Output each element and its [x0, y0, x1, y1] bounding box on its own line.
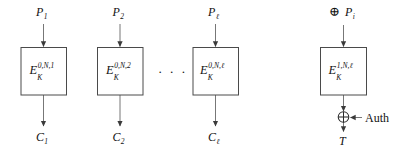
cipher-sup-3: 0,N,ℓ	[208, 62, 224, 70]
cipher-box-tag	[321, 48, 367, 96]
output-label-2: C2	[113, 131, 125, 143]
ellipsis: · · ·	[158, 64, 188, 80]
cipher-box-label-tag: E1,N,ℓK	[329, 64, 337, 77]
cipher-box-2	[98, 48, 144, 96]
cipher-sup-tag: 1,N,ℓ	[337, 62, 353, 70]
cipher-sub-tag: K	[336, 74, 341, 82]
auth-input-label: Auth	[365, 111, 389, 126]
cipher-sub-1: K	[37, 74, 42, 82]
output-label-3: Cℓ	[208, 131, 219, 143]
output-label-1: C1	[36, 131, 48, 143]
tag-output-label: T	[339, 135, 346, 147]
cipher-sub-2: K	[114, 74, 119, 82]
xor-input-symbol-tag: ⊕	[329, 5, 340, 18]
input-label-1: P1	[36, 6, 47, 18]
cipher-sup-1: 0,N,1	[38, 62, 55, 70]
cipher-box-label-1: E0,N,1K	[30, 64, 38, 77]
cipher-mode-diagram: P1 E0,N,1K C1 P2 E0,N,2K C2 · · · Pℓ E0,…	[0, 0, 412, 153]
cipher-box-label-3: E0,N,ℓK	[200, 64, 208, 77]
cipher-sub-3: K	[208, 74, 213, 82]
input-label-2: P2	[113, 6, 124, 18]
cipher-box-1	[21, 48, 67, 96]
input-label-3: Pℓ	[208, 6, 218, 18]
cipher-box-label-2: E0,N,2K	[106, 64, 114, 77]
cipher-sup-2: 0,N,2	[114, 62, 131, 70]
input-label-tag: Pi	[345, 6, 354, 18]
